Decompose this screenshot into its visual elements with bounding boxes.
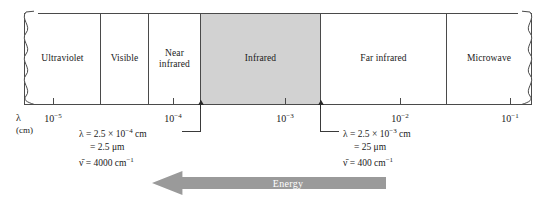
infrared-lower-bound-marker-icon — [200, 100, 201, 109]
spectrum-band-microwave: Microwave — [446, 13, 532, 105]
callout-exponent: −3 — [389, 127, 396, 135]
callout-line: = 25 μm — [343, 141, 411, 154]
callout-exponent: −4 — [125, 127, 132, 135]
callout-text: ν̄ = 400 cm — [343, 158, 386, 168]
callout-line: = 2.5 μm — [79, 141, 147, 154]
axis-tick-label: 10−2 — [391, 112, 408, 124]
wavelength-axis — [24, 104, 532, 106]
spectrum-bar: Ultraviolet Visible Near infrared Infrar… — [24, 13, 532, 105]
tick-mantissa: 10 — [276, 113, 286, 124]
tick-exponent: −5 — [54, 112, 61, 120]
axis-tick — [53, 98, 54, 105]
callout-text: = 2.5 μm — [90, 142, 124, 152]
energy-arrow: Energy — [152, 170, 386, 196]
axis-unit-label: (cm) — [16, 124, 33, 136]
leader-line-vertical-left — [200, 109, 202, 132]
axis-variable-label: λ (cm) — [16, 112, 33, 136]
callout-text: λ = 2.5 × 10 — [79, 129, 125, 139]
callout-line: ν̄ = 400 cm−1 — [343, 154, 411, 170]
spectrum-band-near-infrared: Near infrared — [148, 13, 200, 105]
axis-tick-label: 10−1 — [501, 112, 518, 124]
tick-exponent: −2 — [401, 112, 408, 120]
spectrum-band-far-infrared: Far infrared — [320, 13, 446, 105]
axis-tick — [173, 98, 174, 105]
tick-mantissa: 10 — [501, 113, 511, 124]
leader-line-horizontal-right — [320, 131, 339, 133]
axis-tick-label: 10−4 — [164, 112, 181, 124]
callout-exponent: −1 — [386, 156, 393, 164]
band-label-microwave: Microwave — [465, 53, 513, 65]
callout-line: λ = 2.5 × 10−3 cm — [343, 125, 411, 141]
tick-exponent: −3 — [286, 112, 293, 120]
band-label-visible: Visible — [109, 53, 141, 65]
axis-variable-symbol: λ — [16, 112, 21, 123]
axis-tick — [400, 98, 401, 105]
tick-mantissa: 10 — [44, 113, 54, 124]
axis-tick-label: 10−5 — [44, 112, 61, 124]
band-label-infrared: Infrared — [243, 53, 278, 65]
axis-line — [24, 104, 532, 105]
infrared-upper-bound-marker-icon — [320, 100, 321, 109]
energy-arrow-label: Energy — [152, 178, 386, 189]
callout-text: ν̄ = 4000 cm — [79, 158, 126, 168]
tick-exponent: −1 — [511, 112, 518, 120]
callout-text: λ = 2.5 × 10 — [343, 129, 389, 139]
band-label-far-infrared: Far infrared — [358, 53, 408, 65]
leader-line-vertical-right — [320, 109, 322, 132]
axis-tick — [510, 98, 511, 105]
callout-tail: cm — [133, 129, 147, 139]
spectrum-band-infrared: Infrared — [200, 13, 320, 105]
spectrum-band-visible: Visible — [100, 13, 148, 105]
tick-mantissa: 10 — [391, 113, 401, 124]
band-label-ultraviolet: Ultraviolet — [39, 53, 85, 65]
tick-exponent: −4 — [174, 112, 181, 120]
callout-line: λ = 2.5 × 10−4 cm — [79, 125, 147, 141]
band-label-near-infrared: Near infrared — [157, 48, 192, 71]
callout-line: ν̄ = 4000 cm−1 — [79, 154, 147, 170]
tick-mantissa: 10 — [164, 113, 174, 124]
spectrum-figure: Ultraviolet Visible Near infrared Infrar… — [0, 0, 553, 202]
infrared-upper-bound-callout: λ = 2.5 × 10−3 cm = 25 μm ν̄ = 400 cm−1 — [343, 125, 411, 170]
leader-line-horizontal-left — [182, 131, 201, 133]
callout-exponent: −1 — [126, 156, 133, 164]
callout-text: = 25 μm — [354, 142, 386, 152]
spectrum-band-ultraviolet: Ultraviolet — [24, 13, 100, 105]
axis-tick-label: 10−3 — [276, 112, 293, 124]
infrared-lower-bound-callout: λ = 2.5 × 10−4 cm = 2.5 μm ν̄ = 4000 cm−… — [79, 125, 147, 170]
axis-tick — [285, 98, 286, 105]
callout-tail: cm — [397, 129, 411, 139]
